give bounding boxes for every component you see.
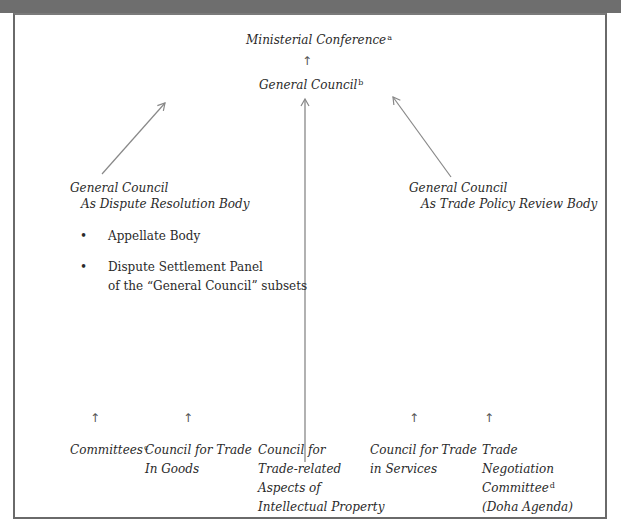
trade-policy-body-subtitle: As Trade Policy Review Body xyxy=(421,195,597,214)
council-trips-label: Council for Trade-related Aspects of Int… xyxy=(258,441,384,517)
council-trade-goods-label: Council for Trade In Goods xyxy=(145,441,252,479)
footnote-a: a xyxy=(387,33,392,42)
up-arrow-icon-goods: ↑ xyxy=(183,412,193,424)
up-arrow-icon-services: ↑ xyxy=(409,412,419,424)
up-arrow-icon-trade-negotiation: ↑ xyxy=(484,412,494,424)
up-arrow-icon: ↑ xyxy=(302,55,312,67)
trade-negotiation-committee-label: Trade Negotiation Committeed (Doha Agend… xyxy=(482,441,573,517)
ministerial-conference-label: Ministerial Conferencea xyxy=(246,31,392,50)
footnote-d: d xyxy=(550,481,555,490)
right-diagonal-arrow xyxy=(393,97,451,177)
general-council-label: General Councilb xyxy=(259,76,363,95)
bullet-icon: • xyxy=(80,227,87,246)
committees-label: Committeesc xyxy=(70,441,149,460)
bullet-dispute-panel: • Dispute Settlement Panel of the “Gener… xyxy=(108,258,307,296)
left-diagonal-arrow xyxy=(102,103,165,174)
up-arrow-icon-committees: ↑ xyxy=(90,412,100,424)
bullet-icon: • xyxy=(80,258,87,277)
footnote-b: b xyxy=(358,78,363,87)
bullet-appellate-body: • Appellate Body xyxy=(108,227,200,246)
council-trade-services-label: Council for Trade in Services xyxy=(370,441,477,479)
dispute-body-subtitle: As Dispute Resolution Body xyxy=(81,195,249,214)
